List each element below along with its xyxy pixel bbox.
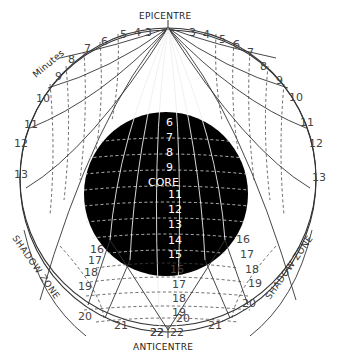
lower-right-19: 19 (248, 277, 262, 290)
lower-right-18: 18 (245, 263, 259, 276)
minute-left-7: 7 (84, 42, 91, 55)
minute-right-6: 6 (233, 38, 240, 51)
core-minute-5: 5 (166, 100, 173, 113)
core-minute-15: 15 (168, 248, 182, 261)
lower-left-21: 21 (114, 319, 128, 332)
core-minute-8: 8 (166, 146, 173, 159)
minute-left-9: 9 (55, 70, 62, 83)
anticentre-label: ANTICENTRE (133, 342, 193, 352)
shadow-zone-arc-left (24, 230, 86, 336)
lower-right-21: 21 (208, 319, 222, 332)
minute-right-11: 11 (300, 116, 314, 129)
minute-right-5: 5 (219, 33, 226, 46)
shadow-zone-left-label: SHADOW ZONE (10, 233, 62, 301)
minute-right-12: 12 (309, 137, 323, 150)
lower-center-17: 17 (172, 278, 186, 291)
lower-right-22: 22 (170, 326, 184, 339)
lower-center-16: 16 (170, 263, 184, 276)
minute-right-7: 7 (247, 46, 254, 59)
lower-right-16: 16 (236, 233, 250, 246)
core-minute-13: 13 (168, 218, 182, 231)
minute-left-10: 10 (36, 92, 50, 105)
core-minute-14: 14 (168, 234, 182, 247)
lower-right-17: 17 (240, 248, 254, 261)
minute-left-11: 11 (24, 118, 38, 131)
core-minute-6: 6 (166, 116, 173, 129)
core-minute-12: 12 (168, 203, 182, 216)
minute-left-6: 6 (101, 35, 108, 48)
seismic-diagram: EPICENTRE ANTICENTRE CORE Minutes SHADOW… (0, 0, 337, 357)
lower-left-22: 22 (150, 326, 164, 339)
minute-left-5: 5 (120, 28, 127, 41)
lower-left-20: 20 (78, 310, 92, 323)
epicentre-label: EPICENTRE (139, 11, 192, 21)
minute-right-13: 13 (312, 171, 326, 184)
minute-left-4: 4 (134, 26, 141, 39)
lower-left-18: 18 (84, 266, 98, 279)
lower-right-20: 20 (242, 297, 256, 310)
lower-center-18: 18 (172, 292, 186, 305)
minute-left-13: 13 (14, 168, 28, 181)
core-minute-7: 7 (166, 131, 173, 144)
minute-left-12: 12 (14, 137, 28, 150)
minute-right-4: 4 (203, 28, 210, 41)
lower-center-20: 20 (176, 312, 190, 325)
minute-right-10: 10 (289, 91, 303, 104)
minute-right-3: 3 (189, 26, 196, 39)
core-minute-11: 11 (168, 188, 182, 201)
minute-right-8: 8 (260, 60, 267, 73)
lower-left-19: 19 (78, 280, 92, 293)
minute-left-3: 3 (145, 26, 152, 39)
core-minute-9: 9 (166, 161, 173, 174)
minute-left-8: 8 (68, 53, 75, 66)
minute-right-9: 9 (276, 74, 283, 87)
